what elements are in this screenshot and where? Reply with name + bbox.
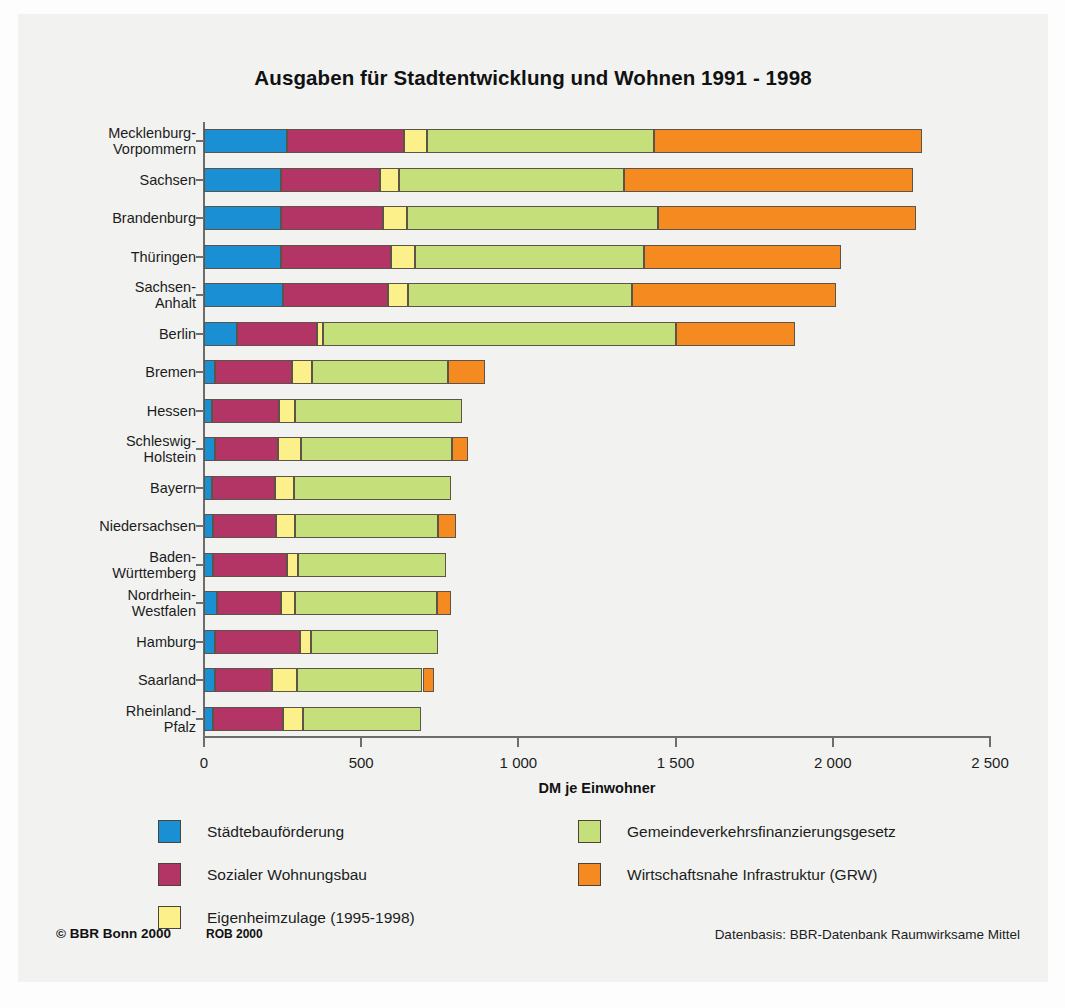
bar-segment[interactable] [215, 668, 272, 692]
bar-segment[interactable] [399, 168, 624, 192]
bar-segment[interactable] [407, 206, 659, 230]
bar-segment[interactable] [448, 360, 486, 384]
legend-item[interactable]: Sozialer Wohnungsbau [158, 853, 588, 896]
bar-segment[interactable] [276, 514, 295, 538]
bar-segment[interactable] [391, 245, 415, 269]
bar-segment[interactable] [279, 399, 295, 423]
legend-swatch-icon [578, 820, 601, 843]
bar-segment[interactable] [204, 360, 215, 384]
x-axis-tick-label: 500 [349, 754, 374, 771]
bar-segment[interactable] [297, 668, 423, 692]
bar-segment[interactable] [204, 322, 237, 346]
bar-segment[interactable] [676, 322, 795, 346]
legend-label: Eigenheimzulage (1995-1998) [207, 909, 415, 927]
legend-item[interactable]: Städtebauförderung [158, 810, 588, 853]
bar-segment[interactable] [204, 437, 215, 461]
bar-segment[interactable] [287, 129, 403, 153]
bar-segment[interactable] [415, 245, 645, 269]
bar-segment[interactable] [283, 283, 388, 307]
x-axis-tick-label: 1 500 [657, 754, 695, 771]
bar-segment[interactable] [300, 630, 311, 654]
copyright-text: © BBR Bonn 2000 [56, 926, 171, 941]
x-axis-tick-label: 2 000 [814, 754, 852, 771]
bar-segment[interactable] [283, 707, 303, 731]
bar-segment[interactable] [654, 129, 923, 153]
bar-segment[interactable] [294, 476, 451, 500]
bar-segment[interactable] [204, 591, 217, 615]
y-axis-tick [196, 371, 204, 373]
bar-segment[interactable] [281, 206, 383, 230]
y-axis-category-label: Sachsen- Anhalt [38, 279, 196, 311]
bar-segment[interactable] [204, 206, 281, 230]
bar-segment[interactable] [213, 514, 276, 538]
bar-segment[interactable] [204, 668, 215, 692]
y-axis-tick [196, 410, 204, 412]
bar-segment[interactable] [213, 553, 287, 577]
bar-segment[interactable] [427, 129, 653, 153]
bar-segment[interactable] [624, 168, 913, 192]
chart-legend: StädtebauförderungSozialer WohnungsbauEi… [18, 810, 1048, 920]
bar-segment[interactable] [204, 707, 213, 731]
bar-segment[interactable] [295, 514, 438, 538]
bar-segment[interactable] [204, 514, 213, 538]
y-axis-tick [196, 333, 204, 335]
bar-segment[interactable] [295, 591, 436, 615]
bar-segment[interactable] [275, 476, 294, 500]
bar-segment[interactable] [212, 399, 280, 423]
bar-segment[interactable] [204, 245, 281, 269]
bar-segment[interactable] [217, 591, 281, 615]
y-axis-tick [196, 487, 204, 489]
y-axis-tick [196, 179, 204, 181]
y-axis-tick [196, 641, 204, 643]
rob-label: ROB 2000 [206, 927, 263, 941]
legend-column-right: GemeindeverkehrsfinanzierungsgesetzWirts… [578, 810, 1038, 896]
bar-segment[interactable] [204, 168, 281, 192]
bar-segment[interactable] [658, 206, 916, 230]
bar-segment[interactable] [452, 437, 468, 461]
bar-segment[interactable] [323, 322, 675, 346]
bar-segment[interactable] [281, 591, 295, 615]
bar-segment[interactable] [204, 399, 212, 423]
bar-segment[interactable] [204, 476, 212, 500]
bar-segment[interactable] [632, 283, 836, 307]
legend-swatch-icon [158, 863, 181, 886]
bar-segment[interactable] [388, 283, 408, 307]
bar-segment[interactable] [311, 630, 438, 654]
bar-segment[interactable] [215, 437, 278, 461]
bar-segment[interactable] [295, 399, 462, 423]
bar-segment[interactable] [423, 668, 434, 692]
bar-segment[interactable] [287, 553, 298, 577]
bar-segment[interactable] [380, 168, 399, 192]
bar-segment[interactable] [204, 630, 215, 654]
legend-item[interactable]: Wirtschaftsnahe Infrastruktur (GRW) [578, 853, 1038, 896]
bar-segment[interactable] [644, 245, 841, 269]
bar-segment[interactable] [215, 630, 300, 654]
bar-segment[interactable] [237, 322, 317, 346]
bar-segment[interactable] [301, 437, 452, 461]
bar-segment[interactable] [404, 129, 428, 153]
bar-segment[interactable] [303, 707, 421, 731]
y-axis-category-label: Berlin [38, 326, 196, 342]
bar-segment[interactable] [204, 129, 287, 153]
bar-segment[interactable] [278, 437, 302, 461]
bar-segment[interactable] [204, 283, 283, 307]
legend-item[interactable]: Gemeindeverkehrsfinanzierungsgesetz [578, 810, 1038, 853]
bar-segment[interactable] [438, 514, 455, 538]
bar-segment[interactable] [408, 283, 631, 307]
bar-segment[interactable] [212, 476, 275, 500]
legend-swatch-icon [158, 820, 181, 843]
bar-segment[interactable] [292, 360, 312, 384]
bar-segment[interactable] [437, 591, 451, 615]
chart-figure: Ausgaben für Stadtentwicklung und Wohnen… [18, 14, 1048, 982]
bar-segment[interactable] [204, 553, 213, 577]
x-axis-tick [360, 738, 362, 747]
bar-segment[interactable] [215, 360, 292, 384]
legend-label: Sozialer Wohnungsbau [207, 866, 367, 884]
bar-segment[interactable] [298, 553, 446, 577]
bar-segment[interactable] [383, 206, 407, 230]
bar-segment[interactable] [312, 360, 447, 384]
bar-segment[interactable] [281, 168, 380, 192]
bar-segment[interactable] [213, 707, 282, 731]
bar-segment[interactable] [272, 668, 297, 692]
bar-segment[interactable] [281, 245, 391, 269]
